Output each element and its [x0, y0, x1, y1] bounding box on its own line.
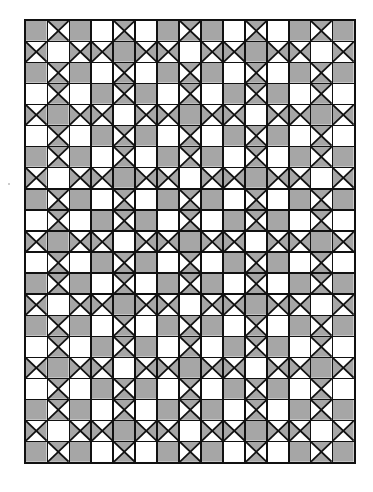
hourglass-vertical-icon: [246, 400, 267, 420]
white-square: [290, 84, 311, 104]
hourglass-vertical-icon: [114, 379, 135, 399]
white-square: [202, 379, 223, 399]
hourglass-vertical-icon: [180, 253, 201, 273]
hourglass-vertical-icon: [48, 147, 69, 167]
gray-square: [268, 379, 289, 399]
gray-square: [246, 295, 267, 315]
gray-square: [26, 400, 47, 420]
hourglass-vertical-icon: [48, 21, 69, 41]
white-square: [92, 21, 113, 41]
white-square: [26, 84, 47, 104]
white-square: [114, 358, 135, 378]
white-square: [136, 316, 157, 336]
hourglass-horizontal-icon: [70, 105, 91, 125]
gray-square: [114, 295, 135, 315]
gray-square: [70, 316, 91, 336]
white-square: [114, 105, 135, 125]
gray-square: [333, 400, 354, 420]
gray-square: [136, 253, 157, 273]
gray-square: [136, 337, 157, 357]
hourglass-horizontal-icon: [202, 232, 223, 252]
hourglass-vertical-icon: [180, 21, 201, 41]
hourglass-horizontal-icon: [290, 358, 311, 378]
hourglass-vertical-icon: [48, 84, 69, 104]
hourglass-vertical-icon: [114, 190, 135, 210]
hourglass-vertical-icon: [246, 84, 267, 104]
gray-square: [246, 168, 267, 188]
gray-square: [290, 63, 311, 83]
white-square: [224, 63, 245, 83]
hourglass-vertical-icon: [311, 190, 332, 210]
white-square: [311, 168, 332, 188]
gray-square: [180, 358, 201, 378]
hourglass-vertical-icon: [180, 274, 201, 294]
gray-square: [290, 147, 311, 167]
gray-square: [246, 42, 267, 62]
hourglass-horizontal-icon: [92, 421, 113, 441]
gray-square: [311, 232, 332, 252]
gray-square: [158, 63, 179, 83]
hourglass-horizontal-icon: [70, 421, 91, 441]
white-square: [92, 63, 113, 83]
hourglass-vertical-icon: [180, 126, 201, 146]
hourglass-horizontal-icon: [26, 105, 47, 125]
gray-square: [114, 42, 135, 62]
gray-square: [224, 84, 245, 104]
white-square: [70, 379, 91, 399]
gray-square: [202, 442, 223, 462]
hourglass-horizontal-icon: [224, 358, 245, 378]
white-square: [92, 274, 113, 294]
gray-square: [268, 253, 289, 273]
gray-square: [136, 126, 157, 146]
white-square: [136, 190, 157, 210]
white-square: [268, 147, 289, 167]
hourglass-vertical-icon: [114, 21, 135, 41]
hourglass-horizontal-icon: [333, 295, 354, 315]
gray-square: [224, 379, 245, 399]
hourglass-vertical-icon: [114, 211, 135, 231]
white-square: [333, 253, 354, 273]
white-square: [48, 42, 69, 62]
gray-square: [333, 21, 354, 41]
gray-square: [92, 337, 113, 357]
hourglass-vertical-icon: [48, 274, 69, 294]
white-square: [136, 63, 157, 83]
white-square: [26, 379, 47, 399]
gray-square: [92, 126, 113, 146]
gray-square: [114, 168, 135, 188]
gray-square: [246, 421, 267, 441]
hourglass-vertical-icon: [114, 400, 135, 420]
hourglass-vertical-icon: [180, 337, 201, 357]
white-square: [268, 63, 289, 83]
hourglass-horizontal-icon: [70, 295, 91, 315]
gray-square: [333, 442, 354, 462]
hourglass-horizontal-icon: [224, 232, 245, 252]
scan-speck: [8, 183, 10, 185]
white-square: [26, 253, 47, 273]
hourglass-horizontal-icon: [268, 358, 289, 378]
white-square: [246, 232, 267, 252]
gray-square: [92, 84, 113, 104]
white-square: [290, 337, 311, 357]
gray-square: [92, 253, 113, 273]
white-square: [70, 253, 91, 273]
hourglass-vertical-icon: [246, 190, 267, 210]
gray-square: [268, 337, 289, 357]
hourglass-horizontal-icon: [290, 168, 311, 188]
hourglass-vertical-icon: [48, 316, 69, 336]
gray-square: [290, 274, 311, 294]
hourglass-horizontal-icon: [333, 105, 354, 125]
hourglass-vertical-icon: [180, 400, 201, 420]
hourglass-horizontal-icon: [70, 168, 91, 188]
gray-square: [202, 190, 223, 210]
hourglass-horizontal-icon: [290, 421, 311, 441]
gray-square: [202, 63, 223, 83]
hourglass-horizontal-icon: [202, 168, 223, 188]
hourglass-vertical-icon: [311, 63, 332, 83]
gray-square: [180, 232, 201, 252]
gray-square: [290, 400, 311, 420]
hourglass-horizontal-icon: [268, 168, 289, 188]
white-square: [268, 316, 289, 336]
hourglass-horizontal-icon: [202, 295, 223, 315]
hourglass-horizontal-icon: [92, 358, 113, 378]
